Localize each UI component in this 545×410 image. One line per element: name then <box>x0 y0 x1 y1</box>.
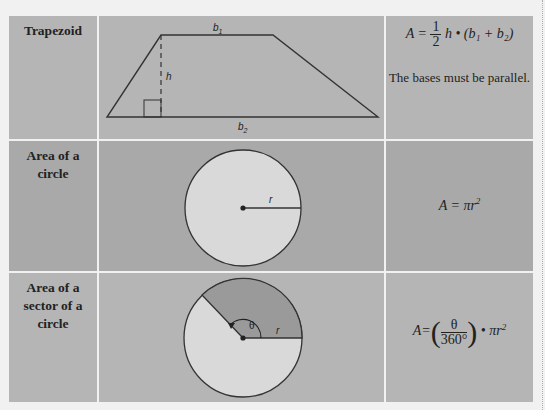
circle-formula-cell: A = πr2 <box>386 141 533 271</box>
sector-formula: A=(θ360°) • πr2 <box>386 315 533 349</box>
sector-formula-cell: A=(θ360°) • πr2 <box>386 273 533 402</box>
angle-label: θ <box>249 320 255 331</box>
height-label: h <box>166 71 172 82</box>
sector-diagram-cell: θ r <box>99 273 384 402</box>
trapezoid-formula-cell: A = 12 h • (b₁ + b₂) The bases must be p… <box>386 16 533 139</box>
row-label: Area of a sector of a circle <box>9 273 97 333</box>
parallel-bases-note: The bases must be parallel. <box>386 70 533 86</box>
circle-diagram: r <box>99 141 384 271</box>
area-formulas-table: Trapezoid h b1 b2 A = 12 h • (b₁ + b₂) T… <box>9 16 533 402</box>
circle-label-cell: Area of a circle <box>9 141 97 271</box>
svg-text:b2: b2 <box>238 121 248 134</box>
circle-formula: A = πr2 <box>386 196 533 214</box>
circle-diagram-cell: r <box>99 141 384 271</box>
svg-text:b1: b1 <box>213 22 223 35</box>
row-label: Trapezoid <box>9 16 97 40</box>
page-edge-dotted-line <box>542 0 543 410</box>
table-row-circle: Area of a circle r A = πr2 <box>9 141 533 271</box>
row-label: Area of a circle <box>9 141 97 183</box>
table-row-sector: Area of a sector of a circle θ r A=(θ360… <box>9 273 533 402</box>
trapezoid-formula: A = 12 h • (b₁ + b₂) <box>386 20 533 49</box>
trapezoid-label-cell: Trapezoid <box>9 16 97 139</box>
trapezoid-diagram-cell: h b1 b2 <box>99 16 384 139</box>
sector-diagram: θ r <box>99 273 384 402</box>
sector-label-cell: Area of a sector of a circle <box>9 273 97 402</box>
table-row-trapezoid: Trapezoid h b1 b2 A = 12 h • (b₁ + b₂) T… <box>9 16 533 139</box>
trapezoid-diagram: h b1 b2 <box>99 16 384 139</box>
